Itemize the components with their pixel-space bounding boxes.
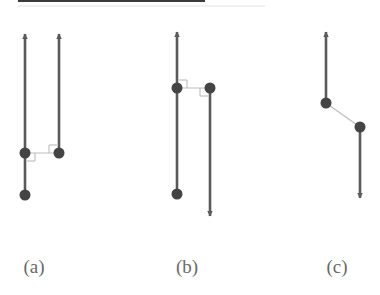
node-point [321,98,332,109]
panel-label-a: (a) [23,256,44,278]
node-point [20,190,31,201]
panel-b [172,32,216,216]
node-point [205,83,216,94]
panels-layer [20,32,366,216]
connector-line [326,103,360,127]
diagram-canvas [0,0,380,295]
panel-label-c: (c) [326,256,347,278]
node-point [172,189,183,200]
panel-c [321,32,366,198]
node-point [172,83,183,94]
panel-label-b: (b) [176,256,198,278]
node-point [54,148,65,159]
node-point [355,122,366,133]
panel-a [20,34,65,201]
node-point [20,148,31,159]
